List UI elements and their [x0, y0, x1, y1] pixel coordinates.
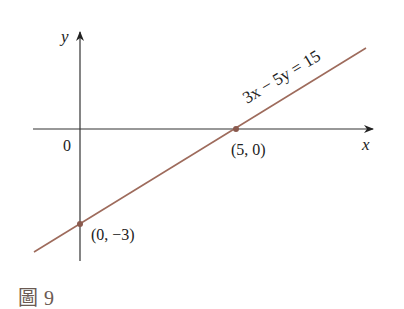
figure-caption: 圖9: [18, 282, 54, 309]
y-axis-label: y: [59, 27, 69, 46]
point-x-intercept-label: (5, 0): [231, 141, 266, 159]
point-x-intercept: [233, 126, 239, 132]
equation-line: [34, 48, 366, 252]
x-axis-label: x: [361, 135, 370, 154]
caption-prefix: 圖: [18, 286, 38, 309]
point-y-intercept: [77, 221, 83, 227]
point-y-intercept-label: (0, −3): [91, 226, 135, 244]
origin-label: 0: [63, 137, 71, 154]
caption-number: 9: [44, 287, 54, 309]
equation-label: 3x − 5y = 15: [239, 46, 324, 107]
graph: y x 0 (5, 0) (0, −3) 3x − 5y = 15: [0, 0, 404, 309]
